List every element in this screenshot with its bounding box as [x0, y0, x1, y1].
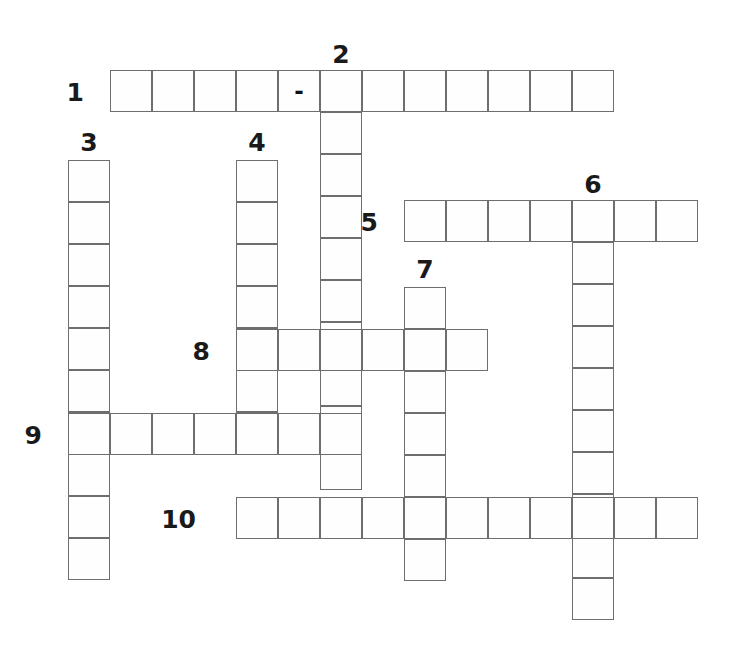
crossword-cell[interactable] [572, 242, 614, 284]
crossword-cell[interactable] [446, 70, 488, 112]
crossword-cell[interactable] [362, 329, 404, 371]
crossword-cell[interactable] [572, 452, 614, 494]
crossword-cell[interactable] [236, 160, 278, 202]
crossword-cell[interactable] [404, 200, 446, 242]
crossword-cell[interactable] [530, 200, 572, 242]
crossword-cell[interactable] [68, 413, 110, 455]
crossword-cell[interactable] [68, 160, 110, 202]
crossword-cell[interactable] [320, 112, 362, 154]
crossword-cell[interactable] [110, 413, 152, 455]
crossword-cell[interactable] [236, 413, 278, 455]
crossword-cell[interactable] [404, 287, 446, 329]
crossword-cell[interactable] [446, 200, 488, 242]
clue-number-8-across[interactable]: 8 [168, 339, 210, 364]
crossword-cell[interactable] [320, 238, 362, 280]
crossword-cell[interactable] [278, 70, 320, 112]
crossword-cell[interactable] [68, 328, 110, 370]
clue-number-4-down[interactable]: 4 [236, 130, 278, 155]
crossword-cell[interactable] [404, 329, 446, 371]
crossword-cell[interactable] [530, 497, 572, 539]
crossword-cell[interactable] [236, 202, 278, 244]
crossword-cell[interactable] [320, 154, 362, 196]
crossword-cell[interactable] [68, 286, 110, 328]
clue-number-9-across[interactable]: 9 [0, 423, 42, 448]
crossword-cell[interactable] [572, 284, 614, 326]
crossword-cell[interactable] [236, 370, 278, 412]
clue-number-2-down[interactable]: 2 [320, 42, 362, 67]
clue-number-5-across[interactable]: 5 [336, 210, 378, 235]
crossword-cell[interactable] [320, 497, 362, 539]
crossword-cell[interactable] [236, 70, 278, 112]
crossword-cell[interactable] [194, 70, 236, 112]
crossword-cell[interactable] [404, 455, 446, 497]
crossword-cell[interactable] [446, 497, 488, 539]
crossword-cell[interactable] [656, 200, 698, 242]
crossword-cell[interactable] [152, 70, 194, 112]
crossword-cell[interactable] [320, 280, 362, 322]
crossword-cell[interactable] [572, 200, 614, 242]
crossword-cell[interactable] [572, 536, 614, 578]
crossword-cell[interactable] [404, 539, 446, 581]
crossword-cell[interactable] [236, 329, 278, 371]
clue-number-7-down[interactable]: 7 [404, 257, 446, 282]
crossword-cell[interactable] [404, 413, 446, 455]
crossword-cell[interactable] [404, 70, 446, 112]
crossword-cell[interactable] [278, 329, 320, 371]
crossword-cell[interactable] [68, 496, 110, 538]
crossword-cell[interactable] [488, 200, 530, 242]
crossword-cell[interactable] [404, 497, 446, 539]
crossword-cell[interactable] [572, 326, 614, 368]
crossword-cell[interactable] [152, 413, 194, 455]
clue-number-10-across[interactable]: 10 [154, 507, 196, 532]
crossword-cell[interactable] [320, 413, 362, 455]
crossword-cell[interactable] [236, 244, 278, 286]
crossword-puzzle: - 12345678910 [0, 0, 737, 656]
clue-number-6-down[interactable]: 6 [572, 172, 614, 197]
crossword-cell[interactable] [572, 70, 614, 112]
clue-number-3-down[interactable]: 3 [68, 130, 110, 155]
crossword-cell[interactable] [572, 578, 614, 620]
crossword-cell[interactable] [68, 454, 110, 496]
crossword-cell[interactable] [278, 413, 320, 455]
crossword-cell[interactable] [110, 70, 152, 112]
crossword-cell[interactable] [68, 244, 110, 286]
crossword-cell[interactable] [278, 497, 320, 539]
crossword-cell[interactable] [404, 371, 446, 413]
crossword-cell[interactable] [572, 497, 614, 539]
crossword-cell[interactable] [320, 329, 362, 371]
crossword-cell[interactable] [194, 413, 236, 455]
crossword-cell[interactable] [446, 329, 488, 371]
crossword-cell[interactable] [614, 200, 656, 242]
crossword-cell[interactable] [236, 286, 278, 328]
crossword-cell[interactable] [320, 70, 362, 112]
crossword-cell[interactable] [236, 497, 278, 539]
crossword-cell[interactable] [530, 70, 572, 112]
crossword-cell[interactable] [362, 70, 404, 112]
crossword-cell[interactable] [68, 202, 110, 244]
crossword-cell[interactable] [656, 497, 698, 539]
crossword-cell[interactable] [68, 370, 110, 412]
crossword-cell[interactable] [572, 410, 614, 452]
crossword-cell[interactable] [488, 70, 530, 112]
crossword-cell[interactable] [68, 538, 110, 580]
crossword-cell[interactable] [488, 497, 530, 539]
clue-number-1-across[interactable]: 1 [42, 80, 84, 105]
crossword-cell[interactable] [614, 497, 656, 539]
crossword-cell[interactable] [572, 368, 614, 410]
crossword-cell[interactable] [362, 497, 404, 539]
